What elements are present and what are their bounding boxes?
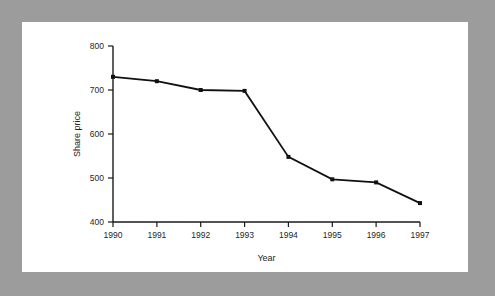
x-tick-label-1996: 1996 <box>367 230 386 240</box>
x-tick-label-1992: 1992 <box>191 230 210 240</box>
y-tick-label-700: 700 <box>90 85 104 95</box>
y-tick-label-500: 500 <box>90 173 104 183</box>
line-chart: 800 700 600 500 400 1990 1991 1992 1993 <box>22 22 468 272</box>
x-tick-label-1990: 1990 <box>104 230 123 240</box>
data-series-line <box>113 77 420 203</box>
chart-svg: 800 700 600 500 400 1990 1991 1992 1993 <box>22 22 468 272</box>
x-axis-title: Year <box>257 253 275 263</box>
data-point-1996 <box>374 180 378 184</box>
data-point-markers <box>111 75 422 205</box>
data-point-1993 <box>243 89 247 93</box>
y-tick-label-800: 800 <box>90 41 104 51</box>
data-point-1991 <box>155 79 159 83</box>
data-point-1992 <box>199 88 203 92</box>
x-tick-label-1993: 1993 <box>235 230 254 240</box>
x-tick-label-1994: 1994 <box>279 230 298 240</box>
y-axis-title: Share price <box>72 111 82 157</box>
x-tick-label-1991: 1991 <box>147 230 166 240</box>
y-tick-label-600: 600 <box>90 129 104 139</box>
data-point-1990 <box>111 75 115 79</box>
y-tick-label-400: 400 <box>90 217 104 227</box>
x-tick-label-1997: 1997 <box>411 230 430 240</box>
data-point-1994 <box>286 155 290 159</box>
x-tick-label-1995: 1995 <box>323 230 342 240</box>
data-point-1995 <box>330 177 334 181</box>
data-point-1997 <box>418 201 422 205</box>
figure-canvas: 800 700 600 500 400 1990 1991 1992 1993 <box>22 22 468 272</box>
screenshot-root: 800 700 600 500 400 1990 1991 1992 1993 <box>0 0 495 296</box>
